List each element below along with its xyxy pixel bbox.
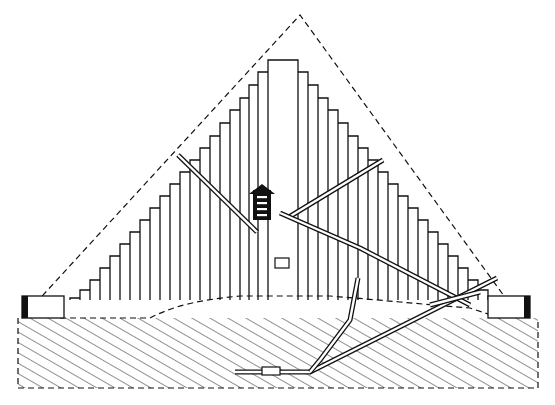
core-step-right	[408, 208, 418, 300]
relieving-chamber-slot	[257, 196, 267, 198]
gabled-roof-icon	[249, 184, 275, 194]
core-step-left	[180, 172, 190, 300]
right-air-shaft-inner	[289, 160, 383, 217]
core-step-left	[130, 232, 140, 300]
core-step-left	[110, 256, 120, 300]
core-step-left	[120, 244, 130, 300]
core-step-left	[170, 184, 180, 300]
core-step-left	[100, 268, 110, 300]
core-step-left	[140, 220, 150, 300]
core-step-right	[348, 136, 358, 300]
core-step-left	[80, 290, 90, 300]
core-step-right	[308, 85, 318, 300]
core-step-right	[338, 123, 348, 300]
core-step-right	[378, 172, 388, 300]
right-wall	[488, 296, 530, 318]
core-step-left	[220, 123, 230, 300]
core-step-left	[240, 98, 249, 300]
core-step-left	[90, 280, 100, 300]
left-wall-solid-face	[22, 296, 28, 318]
diagram-svg	[0, 0, 555, 405]
core-step-left	[210, 136, 220, 300]
right-wall-solid-face	[524, 296, 530, 318]
relieving-chamber-slot	[257, 202, 267, 204]
core-step-right	[388, 184, 398, 300]
core-step-left	[70, 298, 80, 300]
core-step-left	[200, 148, 210, 300]
left-wall	[22, 296, 64, 318]
subterranean-chamber	[262, 367, 280, 375]
ground-hatching	[18, 318, 538, 388]
core-step-left	[160, 196, 170, 300]
queens-chamber	[275, 258, 289, 268]
relieving-chamber-slot	[257, 208, 267, 210]
core-step-left	[150, 208, 160, 300]
core-step-right	[368, 160, 378, 300]
core-step-right	[328, 110, 338, 300]
relieving-chamber-slot	[257, 214, 267, 216]
core-step-right	[418, 220, 428, 300]
core-step-right	[298, 72, 308, 300]
pyramid-cross-section-diagram	[0, 0, 555, 405]
core-step-left	[190, 160, 200, 300]
core-step-right	[398, 196, 408, 300]
